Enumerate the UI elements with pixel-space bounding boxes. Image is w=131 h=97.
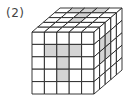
front-face-cell bbox=[32, 44, 44, 56]
front-face-cell bbox=[57, 82, 69, 94]
cube-diagram bbox=[0, 0, 131, 97]
front-face-cell bbox=[44, 82, 56, 94]
front-face-cell bbox=[32, 69, 44, 81]
front-face-cell bbox=[82, 82, 94, 94]
front-face-cell bbox=[82, 32, 94, 44]
front-face-cell bbox=[82, 44, 94, 56]
front-face-cell bbox=[44, 44, 56, 56]
front-face-cell bbox=[57, 57, 69, 69]
front-face-cell bbox=[57, 69, 69, 81]
front-face-cell bbox=[44, 57, 56, 69]
front-face-cell bbox=[82, 69, 94, 81]
front-face-cell bbox=[32, 57, 44, 69]
front-face-cell bbox=[69, 44, 81, 56]
front-face-cell bbox=[32, 82, 44, 94]
front-face-cell bbox=[44, 69, 56, 81]
front-face-cell bbox=[69, 57, 81, 69]
front-face-cell bbox=[57, 32, 69, 44]
front-face-cell bbox=[82, 57, 94, 69]
front-face-cell bbox=[69, 32, 81, 44]
front-face-cell bbox=[69, 82, 81, 94]
front-face-cell bbox=[69, 69, 81, 81]
front-face-cell bbox=[57, 44, 69, 56]
front-face-cell bbox=[44, 32, 56, 44]
front-face-cell bbox=[32, 32, 44, 44]
